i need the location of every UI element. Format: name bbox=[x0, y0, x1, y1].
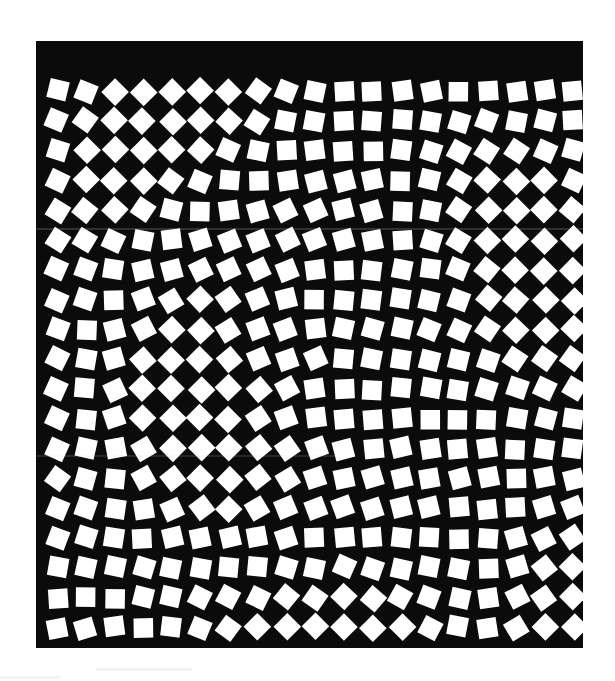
grid-tile bbox=[303, 345, 329, 371]
grid-tile bbox=[389, 613, 417, 641]
grid-tile bbox=[447, 438, 468, 459]
grid-tile bbox=[361, 81, 381, 101]
grid-tile bbox=[75, 348, 98, 371]
grid-tile bbox=[243, 109, 270, 136]
grid-tile bbox=[333, 141, 354, 162]
grid-tile bbox=[157, 167, 184, 194]
grid-tile bbox=[531, 345, 558, 372]
grid-tile bbox=[504, 584, 530, 610]
grid-tile bbox=[46, 78, 70, 102]
grid-tile bbox=[215, 584, 241, 610]
grid-tile bbox=[129, 404, 157, 432]
grid-tile bbox=[161, 228, 183, 250]
grid-tile bbox=[304, 259, 326, 281]
grid-tile bbox=[333, 408, 354, 429]
grid-tile bbox=[530, 196, 558, 224]
grid-tile bbox=[187, 317, 215, 345]
grid-tile bbox=[275, 347, 300, 372]
grid-tile bbox=[158, 288, 185, 315]
grid-tile bbox=[418, 555, 441, 578]
grid-tile bbox=[391, 407, 412, 428]
grid-tile bbox=[246, 346, 272, 372]
grid-tile bbox=[562, 408, 583, 430]
grid-tile bbox=[359, 615, 387, 643]
grid-tile bbox=[303, 496, 328, 521]
grid-tile bbox=[418, 348, 442, 372]
grid-tile bbox=[474, 227, 502, 255]
grid-tile bbox=[219, 169, 240, 190]
grid-tile bbox=[304, 527, 324, 547]
grid-tile bbox=[274, 466, 301, 493]
grid-tile bbox=[128, 374, 156, 402]
grid-tile bbox=[502, 225, 530, 253]
grid-tile bbox=[215, 78, 243, 106]
grid-tile bbox=[73, 496, 98, 521]
grid-tile bbox=[387, 584, 414, 611]
grid-tile bbox=[361, 229, 384, 252]
grid-tile bbox=[274, 109, 297, 132]
grid-tile bbox=[105, 498, 127, 520]
scan-artifact bbox=[0, 676, 60, 679]
grid-tile bbox=[417, 615, 443, 641]
grid-tile bbox=[302, 613, 330, 641]
grid-tile bbox=[421, 410, 441, 430]
grid-tile bbox=[244, 495, 271, 522]
grid-tile bbox=[361, 527, 382, 548]
grid-tile bbox=[71, 197, 98, 224]
grid-tile bbox=[532, 495, 556, 519]
grid-tile bbox=[45, 168, 71, 194]
grid-tile bbox=[532, 376, 558, 402]
grid-tile bbox=[503, 168, 531, 196]
grid-tile bbox=[215, 495, 243, 523]
grid-tile bbox=[334, 260, 354, 280]
grid-tile bbox=[189, 526, 212, 549]
grid-tile bbox=[417, 495, 441, 519]
grid-tile bbox=[159, 557, 182, 580]
grid-tile bbox=[531, 554, 558, 581]
grid-tile bbox=[506, 407, 528, 429]
grid-tile bbox=[533, 138, 559, 164]
grid-tile bbox=[159, 435, 187, 463]
grid-tile bbox=[72, 166, 100, 194]
grid-tile bbox=[104, 437, 127, 460]
grid-tile bbox=[47, 556, 70, 579]
grid-tile bbox=[447, 110, 471, 134]
grid-tile bbox=[390, 377, 411, 398]
grid-tile bbox=[447, 379, 469, 401]
grid-tile bbox=[215, 615, 242, 642]
grid-tile bbox=[245, 316, 270, 341]
grid-tile bbox=[215, 434, 243, 462]
grid-tile bbox=[274, 435, 301, 462]
grid-tile bbox=[44, 465, 71, 492]
grid-tile bbox=[333, 111, 354, 132]
grid-tile bbox=[158, 78, 186, 106]
grid-tile bbox=[559, 196, 583, 223]
grid-tile bbox=[446, 317, 472, 343]
grid-tile bbox=[104, 290, 124, 310]
grid-tile bbox=[103, 318, 127, 342]
grid-tile bbox=[247, 139, 270, 162]
grid-tile bbox=[446, 139, 472, 165]
grid-tile bbox=[104, 555, 127, 578]
grid-tile bbox=[419, 229, 443, 253]
grid-tile bbox=[449, 496, 470, 517]
grid-tile bbox=[102, 405, 127, 430]
grid-tile bbox=[249, 171, 269, 191]
grid-tile bbox=[215, 374, 243, 402]
grid-tile bbox=[390, 466, 413, 489]
grid-tile bbox=[188, 227, 212, 251]
grid-tile bbox=[245, 286, 271, 312]
grid-tile bbox=[275, 227, 301, 253]
grid-tile bbox=[273, 583, 300, 610]
grid-tile bbox=[303, 378, 325, 400]
grid-tile bbox=[102, 377, 128, 403]
grid-tile bbox=[73, 256, 98, 281]
grid-tile bbox=[560, 495, 583, 520]
grid-tile bbox=[75, 409, 97, 431]
grid-tile bbox=[129, 346, 157, 374]
grid-tile bbox=[561, 138, 583, 162]
grid-tile bbox=[303, 557, 326, 580]
grid-tile bbox=[476, 617, 498, 639]
grid-tile bbox=[45, 496, 70, 521]
grid-tile bbox=[186, 464, 214, 492]
